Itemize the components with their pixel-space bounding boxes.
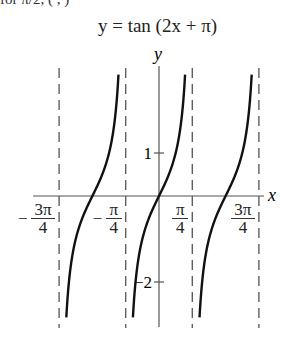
x-tick-label: 3π4 — [31, 201, 55, 236]
x-tick-sign: − — [18, 209, 28, 229]
y-axis-label: y — [152, 44, 162, 64]
x-tick-label: π4 — [106, 201, 122, 236]
x-axis-label: x — [267, 185, 276, 205]
x-tick-sign: − — [93, 209, 103, 229]
x-tick-label: π4 — [172, 201, 188, 236]
y-tick-label: 1 — [144, 144, 153, 163]
x-tick-label: 3π4 — [231, 201, 255, 236]
plot-area: 1−2xy — [0, 0, 290, 341]
